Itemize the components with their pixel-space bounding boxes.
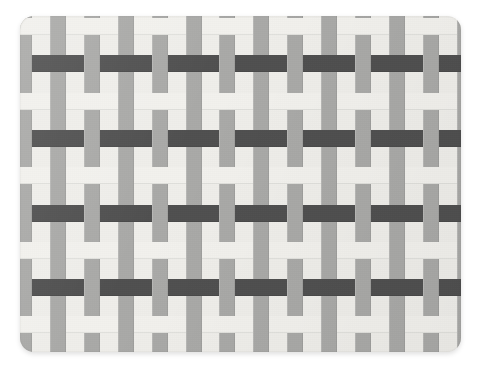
weave-crossing — [84, 167, 100, 184]
weave-crossing — [50, 130, 66, 147]
weave-crossing — [186, 205, 202, 222]
scene-title: Woven placemat — [0, 0, 1, 1]
crossing-seam — [423, 258, 439, 259]
scene-description: Top-down photograph of a rectangular bas… — [0, 0, 1, 1]
crossing-seam — [219, 183, 235, 184]
crossing-seam — [287, 332, 303, 333]
crossing-seam — [253, 221, 269, 222]
crossing-seam — [457, 71, 461, 72]
weave-crossing — [355, 93, 371, 110]
crossing-seam — [152, 109, 168, 110]
crossing-seam — [20, 183, 32, 184]
crossing-seam — [219, 332, 235, 333]
weave-crossing — [355, 18, 371, 35]
crossing-seam — [457, 221, 461, 222]
crossing-seam — [50, 295, 66, 296]
crossing-seam — [321, 295, 337, 296]
crossing-seam — [253, 71, 269, 72]
crossing-seam — [423, 109, 439, 110]
crossing-seam — [50, 146, 66, 147]
weave-crossing — [287, 316, 303, 333]
crossing-seam — [84, 109, 100, 110]
weave-crossing — [20, 93, 32, 110]
weave-crossing — [355, 242, 371, 259]
weave-crossing — [423, 242, 439, 259]
crossing-seam — [219, 34, 235, 35]
crossing-seam — [321, 146, 337, 147]
crossing-seam — [389, 221, 405, 222]
crossing-seam — [84, 258, 100, 259]
weave-crossing — [423, 167, 439, 184]
crossing-seam — [389, 146, 405, 147]
weave-crossing — [118, 205, 134, 222]
crossing-seam — [287, 34, 303, 35]
crossing-seam — [50, 71, 66, 72]
crossing-seam — [50, 221, 66, 222]
crossing-seam — [219, 258, 235, 259]
crossing-seam — [287, 109, 303, 110]
weave-crossing — [20, 167, 32, 184]
weave-crossing — [355, 316, 371, 333]
weave-crossing — [50, 205, 66, 222]
crossing-seam — [84, 332, 100, 333]
weave-crossing — [423, 93, 439, 110]
weave-crossing — [152, 167, 168, 184]
weave-crossing — [186, 55, 202, 72]
crossing-seam — [389, 295, 405, 296]
crossing-seam — [20, 332, 32, 333]
weave-crossing — [321, 279, 337, 296]
crossing-seam — [219, 109, 235, 110]
crossing-seam — [355, 332, 371, 333]
weave-crossing — [118, 55, 134, 72]
weave-crossing — [219, 93, 235, 110]
weave-crossing — [186, 130, 202, 147]
crossing-seam — [423, 183, 439, 184]
weave-crossing — [152, 93, 168, 110]
crossing-seam — [186, 71, 202, 72]
crossing-seam — [186, 146, 202, 147]
weave-crossing — [287, 93, 303, 110]
crossing-seam — [321, 221, 337, 222]
crossing-seam — [355, 109, 371, 110]
crossing-seam — [253, 146, 269, 147]
weave-crossing — [253, 55, 269, 72]
crossing-seam — [152, 34, 168, 35]
weave-crossing — [118, 279, 134, 296]
weave-crossing — [457, 130, 461, 147]
crossing-seam — [118, 295, 134, 296]
weave-crossing — [20, 242, 32, 259]
weave-crossing — [457, 205, 461, 222]
crossing-seam — [84, 34, 100, 35]
crossing-seam — [152, 332, 168, 333]
crossing-seam — [287, 183, 303, 184]
weave-crossing — [50, 279, 66, 296]
crossing-seam — [355, 183, 371, 184]
weave-crossing — [152, 242, 168, 259]
weave-crossing — [84, 93, 100, 110]
weave-pattern-label: plain weave (over-under checkerboard) — [0, 0, 1, 1]
weave-crossing — [219, 316, 235, 333]
weave-crossing — [84, 18, 100, 35]
crossing-seam — [118, 71, 134, 72]
crossing-seam — [423, 332, 439, 333]
weave-crossing — [321, 55, 337, 72]
weave-crossing — [389, 279, 405, 296]
weave-crossing — [457, 55, 461, 72]
crossing-seam — [253, 295, 269, 296]
weave-crossing — [219, 167, 235, 184]
weave-crossing — [118, 130, 134, 147]
weave-crossing — [20, 18, 32, 35]
crossing-seam — [423, 34, 439, 35]
weave-crossing — [457, 279, 461, 296]
crossing-seam — [152, 258, 168, 259]
weave-crossing — [389, 55, 405, 72]
crossing-seam — [118, 146, 134, 147]
crossing-seam — [20, 258, 32, 259]
crossing-seam — [389, 71, 405, 72]
weave-crossing — [253, 205, 269, 222]
weave-crossing — [321, 130, 337, 147]
weave-crossing — [152, 18, 168, 35]
crossing-seam — [20, 109, 32, 110]
crossing-seam — [20, 34, 32, 35]
weave-surface — [20, 16, 461, 352]
